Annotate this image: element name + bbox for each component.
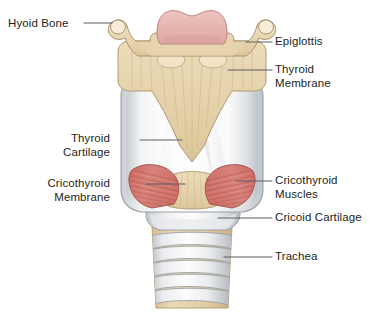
label-cricothyroid-muscles: Cricothyroid Muscles — [275, 174, 338, 201]
label-epiglottis: Epiglottis — [275, 35, 323, 49]
label-cricothyroid-membrane-line2: Membrane — [47, 191, 110, 205]
label-cricothyroid-muscles-line1: Cricothyroid — [275, 174, 338, 188]
label-epiglottis-line1: Epiglottis — [275, 35, 323, 49]
label-thyroid-membrane-line1: Thyroid — [275, 63, 331, 77]
anatomy-figure-root: Hyoid Bone Thyroid Cartilage Cricothyroi… — [0, 0, 384, 322]
epiglottis-group — [157, 11, 227, 44]
label-cricothyroid-membrane: Cricothyroid Membrane — [47, 177, 110, 204]
label-trachea-line1: Trachea — [275, 250, 317, 264]
label-cricoid-cartilage: Cricoid Cartilage — [275, 211, 362, 225]
label-cricothyroid-membrane-line1: Cricothyroid — [47, 177, 110, 191]
label-trachea: Trachea — [275, 250, 317, 264]
label-cricothyroid-muscles-line2: Muscles — [275, 188, 338, 202]
label-hyoid-bone-line1: Hyoid Bone — [8, 17, 68, 31]
larynx-illustration — [0, 0, 384, 322]
label-thyroid-cartilage: Thyroid Cartilage — [63, 132, 110, 159]
label-cricoid-cartilage-line1: Cricoid Cartilage — [275, 211, 362, 225]
label-hyoid-bone: Hyoid Bone — [8, 17, 68, 31]
label-thyroid-cartilage-line2: Cartilage — [63, 146, 110, 160]
label-thyroid-membrane-line2: Membrane — [275, 77, 331, 91]
trachea-group — [150, 226, 234, 308]
label-thyroid-membrane: Thyroid Membrane — [275, 63, 331, 90]
label-thyroid-cartilage-line1: Thyroid — [63, 132, 110, 146]
